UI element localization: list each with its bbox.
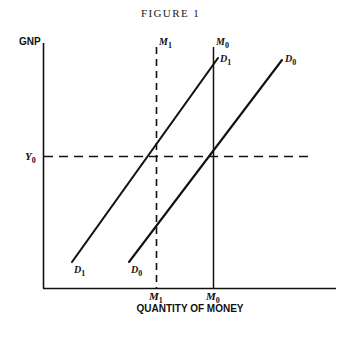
y-axis-title: GNP bbox=[19, 36, 41, 47]
series-label-d1-bottom-base: D bbox=[73, 264, 81, 275]
annotation-m0-top-subscript: 0 bbox=[225, 41, 229, 50]
annotation-m1-top: M1 bbox=[158, 36, 172, 50]
annotation-m1-top-subscript: 1 bbox=[168, 41, 172, 50]
series-label-d0-bottom-base: D bbox=[130, 264, 138, 275]
series-label-d0-bottom-subscript: 0 bbox=[138, 269, 142, 278]
series-line-d1 bbox=[72, 58, 218, 262]
annotation-m0-top: M0 bbox=[215, 36, 229, 50]
svg-text:D1: D1 bbox=[73, 264, 85, 278]
series-label-d0-top-base: D bbox=[284, 53, 292, 64]
figure-container: FIGURE 1 GNP QUANTITY OF MONEY Y0 M bbox=[0, 0, 341, 340]
series-label-d1-top-base: D bbox=[219, 53, 227, 64]
y-tick-y0-subscript: 0 bbox=[32, 156, 36, 165]
x-tick-m0-subscript: 0 bbox=[216, 296, 220, 305]
x-axis-title: QUANTITY OF MONEY bbox=[136, 303, 243, 314]
series-label-d0-top: D0 bbox=[284, 53, 296, 67]
svg-text:D1: D1 bbox=[219, 53, 231, 67]
series-label-d1-top: D1 bbox=[219, 53, 231, 67]
y-tick-label-y0: Y0 bbox=[25, 150, 36, 165]
series-label-d0-top-subscript: 0 bbox=[292, 58, 296, 67]
series-line-d0 bbox=[129, 60, 282, 262]
svg-text:M0: M0 bbox=[215, 36, 229, 50]
series-label-d1-top-subscript: 1 bbox=[227, 58, 231, 67]
x-tick-m1-subscript: 1 bbox=[159, 296, 163, 305]
series-label-d0-bottom: D0 bbox=[130, 264, 142, 278]
svg-text:D0: D0 bbox=[284, 53, 296, 67]
svg-text:D0: D0 bbox=[130, 264, 142, 278]
chart-canvas: GNP QUANTITY OF MONEY Y0 M1 M0 M1 bbox=[0, 0, 341, 340]
svg-text:M1: M1 bbox=[158, 36, 172, 50]
svg-text:Y0: Y0 bbox=[25, 150, 36, 165]
series-label-d1-bottom: D1 bbox=[73, 264, 85, 278]
series-label-d1-bottom-subscript: 1 bbox=[81, 269, 85, 278]
